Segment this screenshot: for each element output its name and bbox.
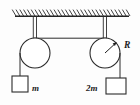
left-mass-block bbox=[12, 76, 28, 92]
left-mass-label: m bbox=[32, 83, 39, 93]
left-pulley bbox=[20, 38, 50, 68]
right-mass-block bbox=[106, 78, 126, 94]
radius-label: R bbox=[123, 40, 130, 50]
diagram-canvas: m 2m R bbox=[0, 0, 140, 105]
ceiling-hatching bbox=[12, 10, 130, 16]
right-mass-label: 2m bbox=[85, 83, 98, 93]
pulley-figure: m 2m R bbox=[0, 0, 140, 105]
